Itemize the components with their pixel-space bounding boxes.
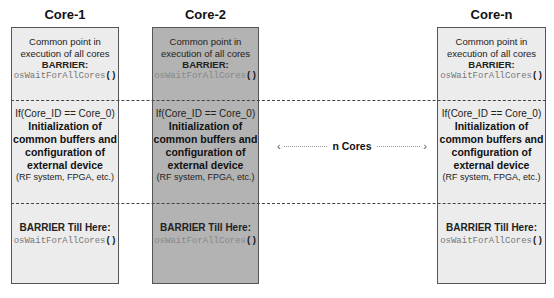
n-cores-indicator: ‹ n Cores › xyxy=(277,139,427,153)
init-section: If(Core_ID == Core_0) Initialization of … xyxy=(153,108,258,208)
condition-text: If(Core_ID == Core_0) xyxy=(438,108,545,120)
note-text: (RF system, FPGA, etc.) xyxy=(12,172,118,184)
init-text: configuration of xyxy=(438,146,545,159)
barrier-call: osWaitForAllCores() xyxy=(12,71,118,83)
barrier-end-section: BARRIER Till Here: osWaitForAllCores() xyxy=(153,214,258,284)
init-text: Initialization of xyxy=(438,120,545,133)
barrier-call: osWaitForAllCores() xyxy=(153,71,258,83)
barrier-end-section: BARRIER Till Here: osWaitForAllCores() xyxy=(12,214,118,284)
core-2-title: Core-2 xyxy=(152,7,259,22)
core-1-title: Core-1 xyxy=(11,7,119,22)
condition-text: If(Core_ID == Core_0) xyxy=(12,108,118,120)
dotted-connector xyxy=(284,146,328,147)
init-text: configuration of xyxy=(12,146,118,159)
text-line: Common point in xyxy=(438,36,545,48)
text-line: Common point in xyxy=(153,36,258,48)
n-cores-label: n Cores xyxy=(330,140,373,152)
note-text: (RF system, FPGA, etc.) xyxy=(438,172,545,184)
init-text: common buffers and xyxy=(153,133,258,146)
init-text: common buffers and xyxy=(438,133,545,146)
condition-text: If(Core_ID == Core_0) xyxy=(153,108,258,120)
init-section: If(Core_ID == Core_0) Initialization of … xyxy=(12,108,118,208)
core-2-box: Common point in execution of all cores B… xyxy=(152,27,259,284)
init-text: configuration of xyxy=(153,146,258,159)
core-1-box: Common point in execution of all cores B… xyxy=(11,27,119,284)
text-line: execution of all cores xyxy=(438,48,545,60)
init-text: external device xyxy=(12,159,118,172)
init-text: common buffers and xyxy=(12,133,118,146)
barrier-start-section: Common point in execution of all cores B… xyxy=(153,36,258,102)
text-line: execution of all cores xyxy=(12,48,118,60)
barrier-end-section: BARRIER Till Here: osWaitForAllCores() xyxy=(438,214,545,284)
barrier-label: BARRIER: xyxy=(438,59,545,71)
barrier-end-label: BARRIER Till Here: xyxy=(153,222,258,234)
chevron-left-icon: ‹ xyxy=(277,140,281,152)
note-text: (RF system, FPGA, etc.) xyxy=(153,172,258,184)
init-text: external device xyxy=(438,159,545,172)
init-section: If(Core_ID == Core_0) Initialization of … xyxy=(438,108,545,208)
dotted-connector xyxy=(377,146,421,147)
core-n-title: Core-n xyxy=(437,7,546,22)
barrier-label: BARRIER: xyxy=(12,59,118,71)
text-line: Common point in xyxy=(12,36,118,48)
barrier-start-dashed-line xyxy=(11,100,546,101)
init-text: external device xyxy=(153,159,258,172)
init-text: Initialization of xyxy=(12,120,118,133)
barrier-end-label: BARRIER Till Here: xyxy=(438,222,545,234)
text-line: execution of all cores xyxy=(153,48,258,60)
init-text: Initialization of xyxy=(153,120,258,133)
chevron-right-icon: › xyxy=(423,140,427,152)
barrier-start-section: Common point in execution of all cores B… xyxy=(12,36,118,102)
barrier-label: BARRIER: xyxy=(153,59,258,71)
barrier-end-label: BARRIER Till Here: xyxy=(12,222,118,234)
barrier-call: osWaitForAllCores() xyxy=(438,236,545,248)
barrier-call: osWaitForAllCores() xyxy=(438,71,545,83)
barrier-call: osWaitForAllCores() xyxy=(12,236,118,248)
barrier-start-section: Common point in execution of all cores B… xyxy=(438,36,545,102)
barrier-end-dashed-line xyxy=(11,203,546,204)
core-n-box: Common point in execution of all cores B… xyxy=(437,27,546,284)
barrier-call: osWaitForAllCores() xyxy=(153,236,258,248)
